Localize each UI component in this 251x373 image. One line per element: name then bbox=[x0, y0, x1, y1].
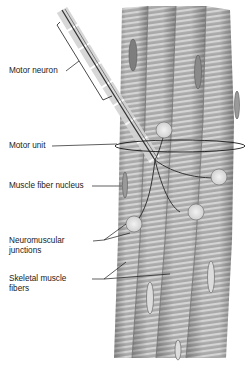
nmj bbox=[156, 122, 172, 138]
nucleus bbox=[175, 340, 181, 360]
nmj bbox=[126, 216, 142, 232]
nucleus bbox=[129, 39, 137, 71]
label-neuromuscular-junctions-2: junctions bbox=[9, 246, 41, 256]
nmj bbox=[211, 169, 227, 185]
nmj bbox=[188, 204, 204, 220]
nucleus bbox=[123, 172, 128, 198]
nucleus bbox=[235, 91, 240, 119]
label-neuromuscular-junctions-1: Neuromuscular bbox=[9, 236, 65, 246]
label-skeletal-muscle-fibers-2: fibers bbox=[9, 284, 29, 294]
label-muscle-fiber-nucleus: Muscle fiber nucleus bbox=[9, 181, 84, 191]
label-motor-neuron: Motor neuron bbox=[9, 66, 58, 76]
label-motor-unit: Motor unit bbox=[9, 141, 45, 151]
nucleus bbox=[208, 261, 215, 293]
label-skeletal-muscle-fibers-1: Skeletal muscle bbox=[9, 274, 66, 284]
nucleus bbox=[147, 282, 154, 314]
nucleus bbox=[195, 55, 202, 89]
